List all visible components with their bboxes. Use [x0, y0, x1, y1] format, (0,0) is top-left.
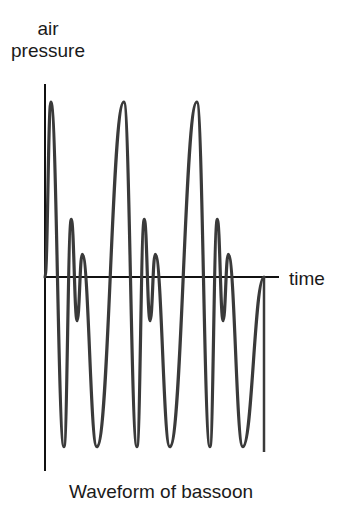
bassoon-waveform	[45, 102, 264, 447]
figure-caption: Waveform of bassoon	[0, 481, 322, 503]
waveform-plot	[0, 0, 348, 516]
x-axis-label: time	[289, 268, 325, 290]
